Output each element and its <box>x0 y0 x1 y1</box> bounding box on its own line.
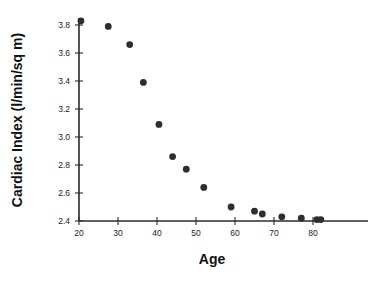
scatter-plot: 2.42.62.83.03.23.43.63.8 20304050607080 … <box>0 0 386 281</box>
x-tick-label: 40 <box>152 228 162 238</box>
data-point <box>251 208 258 215</box>
x-tick-label: 20 <box>74 228 84 238</box>
data-point <box>169 153 176 160</box>
data-point <box>78 17 85 24</box>
x-axis-label: Age <box>199 251 226 267</box>
x-tick-label: 50 <box>191 228 201 238</box>
y-tick-label: 3.8 <box>58 20 70 30</box>
data-point <box>183 166 190 173</box>
x-tick-label: 30 <box>113 228 123 238</box>
y-tick-label: 3.4 <box>58 76 70 86</box>
data-point <box>140 79 147 86</box>
y-tick-label: 2.4 <box>58 216 70 226</box>
data-point <box>126 41 133 48</box>
data-point <box>105 23 112 30</box>
x-tick-label: 60 <box>230 228 240 238</box>
data-points <box>78 17 325 223</box>
y-tick-label: 2.8 <box>58 160 70 170</box>
y-tick-label: 3.0 <box>58 132 70 142</box>
data-point <box>156 121 163 128</box>
data-point <box>259 211 266 218</box>
data-point <box>317 216 324 223</box>
y-tick-label: 3.2 <box>58 104 70 114</box>
x-tick-label: 80 <box>308 228 318 238</box>
x-tick-label: 70 <box>269 228 279 238</box>
y-tick-label: 2.6 <box>58 188 70 198</box>
data-point <box>298 215 305 222</box>
y-tick-label: 3.6 <box>58 48 70 58</box>
y-axis-label: Cardiac Index (l/min/sq m) <box>9 33 25 207</box>
data-point <box>228 204 235 211</box>
chart-figure: 2.42.62.83.03.23.43.63.8 20304050607080 … <box>0 0 386 281</box>
data-point <box>200 184 207 191</box>
data-point <box>278 213 285 220</box>
